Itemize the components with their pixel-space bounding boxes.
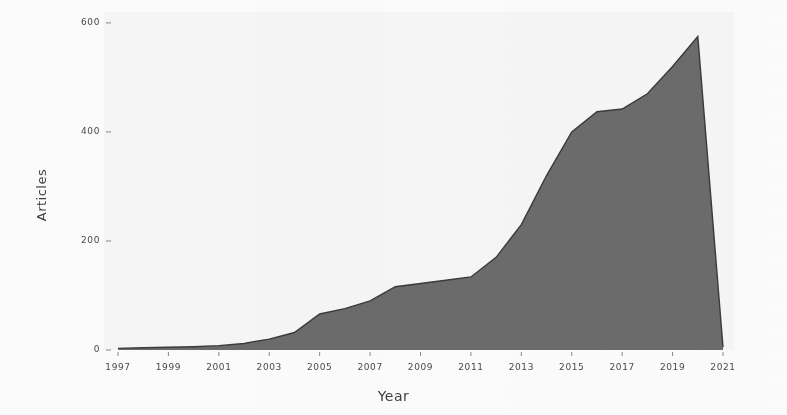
x-axis-tick-label: 2019 <box>660 362 685 372</box>
x-axis-tick-label: 2013 <box>509 362 534 372</box>
chart-figure: 0200400600 19971999200120032005200720092… <box>0 0 787 415</box>
x-axis-tick-label: 2005 <box>307 362 332 372</box>
y-axis-tick-label: 200 <box>48 235 100 245</box>
x-axis-tick-label: 2009 <box>408 362 433 372</box>
x-axis-tick-label: 2003 <box>257 362 282 372</box>
x-axis-tick-label: 2021 <box>710 362 735 372</box>
x-axis-title: Year <box>0 388 787 404</box>
x-axis-tick-marks <box>118 352 723 356</box>
area-chart-plot <box>0 0 787 415</box>
x-axis-tick-label: 1997 <box>105 362 130 372</box>
x-axis-tick-label: 2015 <box>559 362 584 372</box>
x-axis-tick-label: 2007 <box>357 362 382 372</box>
y-axis-tick-label: 0 <box>48 344 100 354</box>
x-axis-tick-label: 2011 <box>458 362 483 372</box>
y-axis-title: Articles <box>34 150 49 240</box>
x-axis-tick-label: 1999 <box>156 362 181 372</box>
x-axis-tick-label: 2017 <box>610 362 635 372</box>
y-axis-tick-label: 400 <box>48 126 100 136</box>
y-axis-tick-label: 600 <box>48 17 100 27</box>
x-axis-tick-label: 2001 <box>206 362 231 372</box>
